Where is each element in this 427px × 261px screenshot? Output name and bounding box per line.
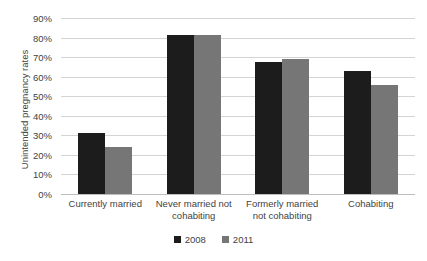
chart-legend: 20082011 xyxy=(0,234,427,245)
y-axis-tick-label: 80% xyxy=(33,32,52,43)
bar-group xyxy=(238,18,327,194)
bar-2011-2[interactable] xyxy=(194,35,221,194)
legend-label: 2008 xyxy=(185,234,206,245)
bar-2011-3[interactable] xyxy=(282,59,309,194)
x-axis-label: Currently married xyxy=(61,198,150,228)
bar-2008-2[interactable] xyxy=(167,35,194,194)
chart-container: Unintended pregnancy rates 90%80%70%60%5… xyxy=(0,0,427,261)
y-axis-tick-label: 90% xyxy=(33,13,52,24)
legend-label: 2011 xyxy=(233,234,253,245)
y-axis-tick-label: 70% xyxy=(33,52,52,63)
y-axis-tick-label: 10% xyxy=(33,169,52,180)
bar-group-bars xyxy=(238,18,327,194)
bar-2008-1[interactable] xyxy=(78,133,105,194)
legend-item-2011[interactable]: 2011 xyxy=(222,234,253,245)
bar-2011-1[interactable] xyxy=(105,147,132,194)
y-axis-tick-label: 30% xyxy=(33,130,52,141)
x-axis-label: Formerly married not cohabiting xyxy=(238,198,327,228)
plot-area xyxy=(61,18,415,194)
bar-group-bars xyxy=(327,18,416,194)
bar-2008-4[interactable] xyxy=(344,71,371,194)
bar-group xyxy=(150,18,239,194)
x-axis-label: Never married not cohabiting xyxy=(150,198,239,228)
y-axis-tick-label: 20% xyxy=(33,149,52,160)
bar-group-bars xyxy=(61,18,150,194)
gridline xyxy=(61,194,415,195)
legend-swatch-icon xyxy=(222,236,229,243)
y-axis-tick-label: 0% xyxy=(38,189,52,200)
legend-item-2008[interactable]: 2008 xyxy=(174,234,206,245)
y-axis-tick-label: 60% xyxy=(33,71,52,82)
y-axis-tick-labels: 90%80%70%60%50%40%30%20%10%0% xyxy=(0,18,56,194)
bar-2011-4[interactable] xyxy=(371,85,398,195)
legend-swatch-icon xyxy=(174,236,181,243)
bar-groups xyxy=(61,18,415,194)
bar-group-bars xyxy=(150,18,239,194)
x-axis-label: Cohabiting xyxy=(327,198,416,228)
y-axis-tick-label: 50% xyxy=(33,91,52,102)
x-axis-category-labels: Currently marriedNever married not cohab… xyxy=(61,198,415,228)
y-axis-tick-label: 40% xyxy=(33,110,52,121)
bar-group xyxy=(327,18,416,194)
bar-group xyxy=(61,18,150,194)
bar-2008-3[interactable] xyxy=(255,62,282,194)
